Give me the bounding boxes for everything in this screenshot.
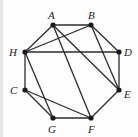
edge-B-D bbox=[91, 25, 119, 52]
graph-edges bbox=[25, 25, 119, 118]
vertex-label-F: F bbox=[87, 123, 95, 135]
vertex-H bbox=[22, 49, 27, 54]
vertex-E bbox=[116, 87, 121, 92]
graph-labels: ABDEFGCH bbox=[8, 9, 132, 135]
vertex-D bbox=[116, 49, 121, 54]
edge-H-A bbox=[25, 25, 53, 52]
vertex-label-C: C bbox=[10, 84, 18, 96]
vertex-A bbox=[50, 22, 55, 27]
vertex-label-G: G bbox=[48, 123, 56, 135]
edge-A-E bbox=[53, 25, 119, 90]
vertex-label-H: H bbox=[8, 46, 18, 58]
vertex-F bbox=[88, 115, 93, 120]
vertex-label-B: B bbox=[88, 9, 95, 21]
edge-E-F bbox=[91, 90, 119, 118]
edge-H-G bbox=[25, 52, 53, 118]
vertex-label-A: A bbox=[47, 9, 55, 21]
vertex-B bbox=[88, 22, 93, 27]
graph-diagram: ABDEFGCH bbox=[0, 0, 138, 137]
diagram-frame: ABDEFGCH bbox=[0, 0, 138, 137]
vertex-label-D: D bbox=[123, 46, 132, 58]
edge-G-C bbox=[25, 90, 53, 118]
edge-B-E bbox=[91, 25, 119, 90]
vertex-G bbox=[50, 115, 55, 120]
vertex-label-E: E bbox=[123, 88, 131, 100]
vertex-C bbox=[22, 87, 27, 92]
